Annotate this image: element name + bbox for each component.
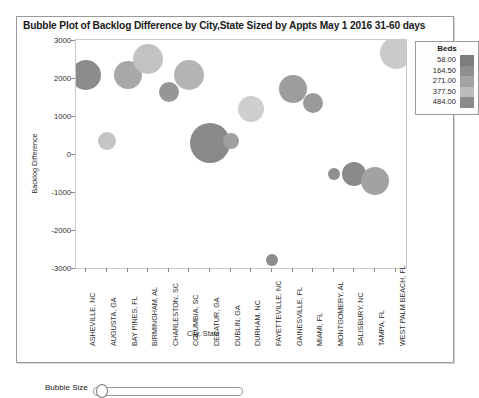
bubble-point[interactable]: [98, 132, 116, 150]
x-tick-label: MONTGOMERY, AL: [336, 282, 345, 346]
x-tick-label: DUBLIN, GA: [233, 305, 242, 346]
bubble-point[interactable]: [279, 75, 307, 103]
chart-panel: Bubble Plot of Backlog Difference by Cit…: [16, 16, 454, 363]
legend: Beds 58.00164.50271.00377.50484.00: [415, 41, 479, 115]
x-tick-mark: [209, 268, 210, 272]
legend-entry-value: 484.00: [433, 97, 456, 106]
legend-entry: 271.00: [416, 76, 478, 87]
legend-entry-value: 58.00: [437, 55, 456, 64]
x-tick-label: SALISBURY, NC: [356, 292, 365, 346]
x-tick-label: BIRMINGHAM, AL: [150, 287, 159, 346]
bubble-size-label: Bubble Size: [45, 383, 88, 392]
x-tick-label: COLUMBIA, SC: [191, 294, 200, 346]
x-tick-mark: [271, 268, 272, 272]
x-tick-mark: [168, 268, 169, 272]
bubble-point[interactable]: [303, 93, 323, 113]
x-tick-label: DURHAM, NC: [253, 300, 262, 346]
x-tick-mark: [85, 268, 86, 272]
x-tick-mark: [333, 268, 334, 272]
x-tick-label: ASHEVILLE, NC: [88, 292, 97, 346]
bubble-point[interactable]: [266, 254, 278, 266]
y-tick-label: 3000: [54, 36, 71, 45]
bubble-point[interactable]: [174, 60, 204, 90]
legend-entry-swatch: [460, 76, 474, 87]
plot-area: [75, 39, 407, 269]
x-tick-label: GAINESVILLE, FL: [295, 287, 304, 346]
x-tick-mark: [230, 268, 231, 272]
x-tick-mark: [250, 268, 251, 272]
legend-entry: 58.00: [416, 55, 478, 66]
x-tick-mark: [353, 268, 354, 272]
x-axis-label: City, State: [187, 329, 220, 338]
legend-entry-swatch: [460, 55, 474, 66]
bubble-point[interactable]: [380, 39, 407, 69]
legend-entry: 164.50: [416, 66, 478, 77]
bubble-point[interactable]: [361, 167, 389, 195]
y-axis-label: Backlog Difference: [30, 119, 39, 209]
x-tick-mark: [292, 268, 293, 272]
legend-entry-swatch: [460, 97, 474, 108]
legend-title: Beds: [416, 44, 478, 53]
legend-entries: 58.00164.50271.00377.50484.00: [416, 55, 478, 108]
y-tick-label: -3000: [52, 264, 71, 273]
bubble-point[interactable]: [133, 44, 163, 74]
x-tick-mark: [106, 268, 107, 272]
x-tick-mark: [312, 268, 313, 272]
y-tick-label: -1000: [52, 188, 71, 197]
x-tick-label: BAY PINES, FL: [130, 296, 139, 346]
legend-entry-value: 377.50: [433, 87, 456, 96]
x-tick-label: CHARLESTON, SC: [171, 283, 180, 346]
y-tick-label: -2000: [52, 226, 71, 235]
chart-title: Bubble Plot of Backlog Difference by Cit…: [23, 20, 447, 34]
legend-entry-value: 164.50: [433, 66, 456, 75]
legend-entry-value: 271.00: [433, 76, 456, 85]
bubble-point[interactable]: [75, 60, 101, 90]
x-tick-label: AUGUSTA, GA: [109, 297, 118, 346]
x-tick-label: WEST PALM BEACH, FL: [398, 265, 407, 346]
x-tick-label: FAYETTEVILLE, NC: [274, 281, 283, 346]
x-tick-mark: [188, 268, 189, 272]
bubble-point[interactable]: [328, 168, 340, 180]
x-axis: ASHEVILLE, NCAUGUSTA, GABAY PINES, FLBIR…: [75, 268, 405, 353]
x-tick-mark: [147, 268, 148, 272]
legend-entry: 484.00: [416, 97, 478, 108]
bubble-point[interactable]: [238, 96, 264, 122]
legend-entry-swatch: [460, 66, 474, 77]
y-tick-label: 2000: [54, 74, 71, 83]
bubble-point[interactable]: [223, 133, 239, 149]
x-tick-label: DECATUR, GA: [212, 297, 221, 346]
x-tick-label: MIAMI, FL: [315, 313, 324, 346]
bubble-point[interactable]: [159, 82, 179, 102]
x-tick-label: TAMPA, FL: [377, 310, 386, 346]
y-tick-label: 1000: [54, 112, 71, 121]
x-tick-mark: [395, 268, 396, 272]
legend-entry: 377.50: [416, 87, 478, 98]
x-tick-mark: [127, 268, 128, 272]
bubble-size-slider[interactable]: [93, 387, 243, 396]
y-axis: Backlog Difference 3000200010000-1000-20…: [17, 39, 75, 269]
bubble-size-slider-handle[interactable]: [96, 384, 108, 398]
legend-entry-swatch: [460, 87, 474, 98]
x-tick-mark: [374, 268, 375, 272]
